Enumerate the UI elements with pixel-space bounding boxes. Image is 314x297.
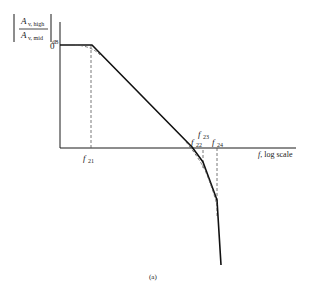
f21-label: f 21 [83,153,94,164]
svg-text:f: f [212,137,216,147]
y-label-den-sub: v, mid [28,35,43,41]
f23-label: f 23 [198,129,209,140]
bode-plot: A v, high A v, mid dB 0 f, log scale f 2… [0,0,314,297]
figure-caption: (a) [149,273,157,281]
svg-text:22: 22 [196,142,202,148]
x-axis-label: f, log scale [258,150,293,159]
svg-text:23: 23 [203,134,209,140]
actual-response-corner-high [186,142,217,205]
svg-text:21: 21 [88,158,94,164]
svg-text:f: f [191,137,195,147]
svg-text:24: 24 [217,142,223,148]
y-tick-zero: 0 [50,41,55,51]
y-label-num-sub: v, high [28,21,44,27]
y-label-den-main: A [20,30,27,40]
y-label-num-main: A [20,16,27,26]
svg-text:f: f [83,153,87,163]
svg-text:f: f [198,129,202,139]
f24-label: f 24 [212,137,223,148]
